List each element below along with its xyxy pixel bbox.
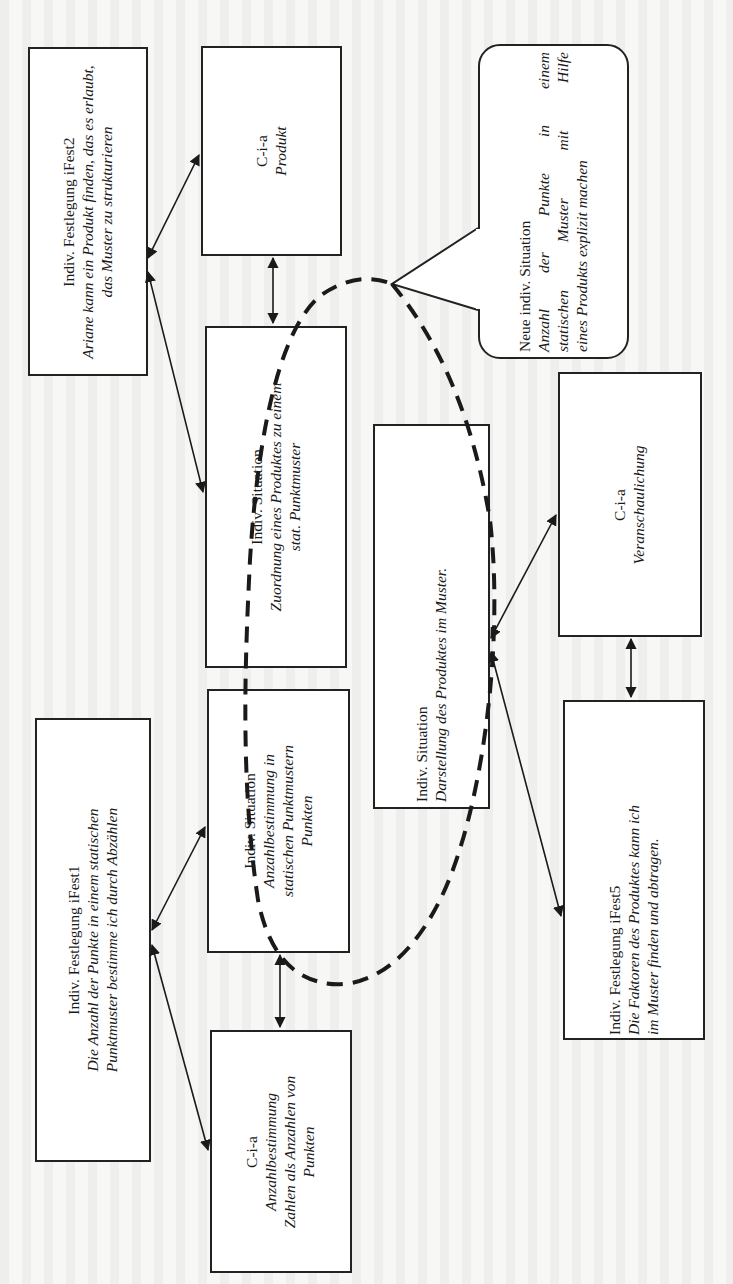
node-title: Indiv. Festlegung iFest2 (60, 52, 79, 372)
node-text: Anzahl der Punkte in einem (535, 52, 554, 352)
node-title: Indiv. Situation (241, 696, 260, 946)
node-cia-anzahlbestimmung: C-i-a Anzahlbestimmung Zahlen als Anzahl… (210, 1030, 352, 1273)
callout-neue-situation: Neue indiv. Situation Anzahl der Punkte … (478, 44, 629, 359)
node-text: Veranschaulichung (630, 380, 649, 630)
edge-ifest1-anzahl (152, 827, 205, 930)
node-text: Punkten (297, 696, 316, 946)
node-text: eines Produkts explizit machen (572, 52, 591, 352)
node-text: Ariane kann ein Produkt finden, das es e… (79, 52, 98, 372)
node-title: C-i-a (253, 51, 272, 251)
node-text: Anzahlbestimmung in (260, 696, 279, 946)
node-text: statischen Muster mit Hilfe (554, 52, 573, 352)
node-text: Die Faktoren des Produktes kann ich (625, 705, 644, 1035)
node-title: Indiv. Festlegung iFest1 (65, 725, 84, 1155)
node-text: stat. Punktmuster (285, 332, 304, 662)
edge-ifest2-zuordnung (148, 272, 203, 492)
node-situation-zuordnung: Indiv. Situation Zuordnung eines Produkt… (205, 326, 347, 668)
node-text: Darstellung des Produktes im Muster. (432, 432, 451, 802)
node-ifest5: Indiv. Festlegung iFest5 Die Faktoren de… (563, 700, 705, 1040)
node-cia-veranschaulichung: C-i-a Veranschaulichung (558, 372, 702, 637)
node-text: Punktmuster bestimme ich durch Abzählen (102, 725, 121, 1155)
node-title: C-i-a (611, 380, 630, 630)
node-text: Punkten (300, 1034, 319, 1269)
node-cia-produkt: C-i-a Produkt (201, 46, 342, 256)
node-text: Zahlen als Anzahlen von (281, 1034, 300, 1269)
node-text: das Muster zu strukturieren (97, 52, 116, 372)
node-title: Indiv. Festlegung iFest5 (606, 705, 625, 1035)
edge-ifest2-produkt (148, 155, 199, 258)
node-title: Indiv. Situation (248, 332, 267, 662)
edge-darstellung-veranschaulichung (491, 515, 556, 638)
node-ifest2: Indiv. Festlegung iFest2 Ariane kann ein… (28, 47, 148, 376)
node-title: Indiv. Situation (413, 432, 432, 802)
node-text: Produkt (272, 51, 291, 251)
callout-pointer (392, 228, 478, 310)
node-text: Anzahlbestimmung (262, 1034, 281, 1269)
node-situation-darstellung: Indiv. Situation Darstellung des Produkt… (373, 424, 490, 809)
node-text: Zuordnung eines Produktes zu einem (267, 332, 286, 662)
node-situation-anzahlbestimmung: Indiv. Situation Anzahlbestimmung in sta… (207, 689, 350, 953)
edge-ifest1-cia-anzahl (152, 945, 208, 1150)
node-text: statischen Punktmustern (279, 696, 298, 946)
node-title: Neue indiv. Situation (516, 52, 535, 352)
node-ifest1: Indiv. Festlegung iFest1 Die Anzahl der … (35, 718, 151, 1162)
node-text: Die Anzahl der Punkte in einem statische… (84, 725, 103, 1155)
node-title: C-i-a (243, 1034, 262, 1269)
edge-darstellung-ifest5 (491, 652, 561, 916)
node-text: im Muster finden und abtragen. (643, 705, 662, 1035)
